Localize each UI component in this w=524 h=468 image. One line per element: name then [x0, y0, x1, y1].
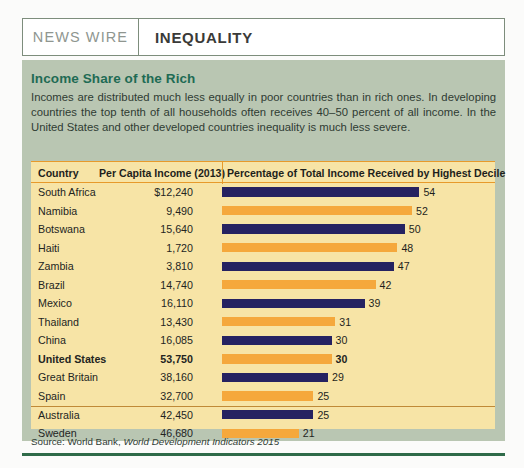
- row-bar-value: 48: [401, 242, 413, 254]
- row-bar-track: 30: [222, 331, 495, 350]
- column-header-income: Per Capita Income (2013): [99, 167, 225, 179]
- row-income: 14,740: [91, 279, 193, 291]
- table-row: Botswana15,64050: [31, 220, 495, 239]
- row-bar-value: 50: [409, 223, 421, 235]
- row-bar: [222, 373, 328, 382]
- row-bar: [222, 391, 313, 400]
- row-bar-track: 48: [222, 239, 495, 258]
- row-country: Great Britain: [38, 371, 98, 383]
- row-bar-track: 29: [222, 368, 495, 387]
- row-bar-track: 52: [222, 202, 495, 221]
- row-income: 16,110: [91, 297, 193, 309]
- bottom-rule: [22, 453, 505, 456]
- row-country: Haiti: [38, 242, 59, 254]
- row-bar-value: 25: [317, 390, 329, 402]
- row-income: 9,490: [91, 205, 193, 217]
- column-header-country: Country: [38, 167, 79, 179]
- row-bar-value: 21: [303, 427, 315, 439]
- chart-baseline-rule: [31, 406, 495, 407]
- row-country: Spain: [38, 390, 65, 402]
- table-row: Zambia3,81047: [31, 257, 495, 276]
- row-country: Thailand: [38, 316, 79, 328]
- table-row: South Africa$12,24054: [31, 183, 495, 202]
- row-bar-track: 50: [222, 220, 495, 239]
- table-row: Great Britain38,16029: [31, 368, 495, 387]
- row-country: Namibia: [38, 205, 77, 217]
- source-prefix: Source: World Bank,: [31, 436, 123, 447]
- row-bar-track: 54: [222, 183, 495, 202]
- source-note: Source: World Bank, World Development In…: [31, 436, 279, 447]
- table-row: Mexico16,11039: [31, 294, 495, 313]
- row-bar: [222, 410, 313, 419]
- row-bar: [222, 262, 394, 271]
- row-bar-track: 25: [222, 387, 495, 406]
- row-country: Botswana: [38, 223, 85, 235]
- table-row: Namibia9,49052: [31, 202, 495, 221]
- row-bar-track: 47: [222, 257, 495, 276]
- topic-cell: INEQUALITY: [139, 19, 504, 55]
- row-bar-value: 47: [398, 260, 410, 272]
- table-row: Spain32,70025: [31, 387, 495, 406]
- row-bar-value: 29: [332, 371, 344, 383]
- row-bar-track: 25: [222, 406, 495, 425]
- row-bar-value: 25: [317, 409, 329, 421]
- header-column-divider: [222, 162, 223, 184]
- row-bar: [222, 280, 376, 289]
- row-income: $12,240: [91, 186, 193, 198]
- row-bar-track: 30: [222, 350, 495, 369]
- figure-title: Income Share of the Rich: [31, 71, 195, 86]
- row-bar-value: 30: [336, 334, 348, 346]
- table-row: China16,08530: [31, 331, 495, 350]
- table-row: United States53,75030: [31, 350, 495, 369]
- row-income: 53,750: [91, 353, 193, 365]
- figure-intro-text: Incomes are distributed much less equall…: [31, 90, 496, 136]
- table-row: Brazil14,74042: [31, 276, 495, 295]
- row-bar-track: 39: [222, 294, 495, 313]
- row-income: 15,640: [91, 223, 193, 235]
- row-bar-value: 39: [369, 297, 381, 309]
- row-bar: [222, 317, 335, 326]
- table-body: South Africa$12,24054Namibia9,49052Botsw…: [31, 183, 495, 443]
- row-bar: [222, 336, 332, 345]
- table-header-row: Country Per Capita Income (2013) Percent…: [31, 161, 495, 183]
- row-bar: [222, 206, 412, 215]
- figure-panel: Income Share of the Rich Incomes are dis…: [22, 60, 505, 441]
- row-bar: [222, 224, 405, 233]
- row-income: 42,450: [91, 409, 193, 421]
- row-income: 3,810: [91, 260, 193, 272]
- row-bar: [222, 187, 419, 196]
- row-bar: [222, 299, 365, 308]
- kicker-cell: NEWS WIRE: [23, 19, 139, 55]
- row-bar-value: 54: [423, 186, 435, 198]
- row-country: South Africa: [38, 186, 96, 198]
- news-wire-figure-page: NEWS WIRE INEQUALITY Income Share of the…: [0, 0, 524, 468]
- table-row: Thailand13,43031: [31, 313, 495, 332]
- row-country: China: [38, 334, 66, 346]
- row-income: 32,700: [91, 390, 193, 402]
- row-income: 38,160: [91, 371, 193, 383]
- row-income: 16,085: [91, 334, 193, 346]
- kicker-bar: NEWS WIRE INEQUALITY: [22, 18, 505, 56]
- row-income: 1,720: [91, 242, 193, 254]
- row-bar-value: 31: [339, 316, 351, 328]
- topic-title: INEQUALITY: [155, 29, 253, 46]
- column-header-percentage: Percentage of Total Income Received by H…: [227, 167, 505, 179]
- kicker-label: NEWS WIRE: [33, 29, 128, 45]
- row-country: Brazil: [38, 279, 65, 291]
- row-bar: [222, 354, 332, 363]
- row-bar-track: 31: [222, 313, 495, 332]
- row-income: 13,430: [91, 316, 193, 328]
- source-publication: World Development Indicators 2015: [123, 436, 279, 447]
- row-country: Australia: [38, 409, 80, 421]
- row-country: Mexico: [38, 297, 72, 309]
- row-bar-value: 52: [416, 205, 428, 217]
- row-country: Zambia: [38, 260, 74, 272]
- chart-panel: Country Per Capita Income (2013) Percent…: [31, 161, 495, 429]
- row-bar-value: 42: [380, 279, 392, 291]
- table-row: Haiti1,72048: [31, 239, 495, 258]
- row-bar-track: 42: [222, 276, 495, 295]
- table-row: Australia42,45025: [31, 406, 495, 425]
- row-bar-value: 30: [336, 353, 348, 365]
- row-bar: [222, 243, 397, 252]
